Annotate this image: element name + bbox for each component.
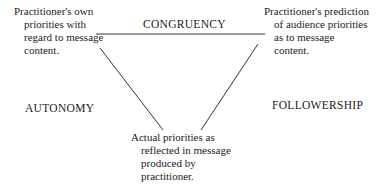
- node-line: priorities with: [14, 18, 103, 31]
- node-own-priorities: Practitioner's own priorities with regar…: [14, 5, 103, 57]
- node-line: Practitioner's own: [14, 5, 93, 17]
- node-line: Practitioner's prediction: [264, 5, 369, 17]
- node-line: of audience priorities: [264, 18, 369, 31]
- node-line: Actual priorities as: [131, 131, 215, 143]
- node-line: produced by: [131, 157, 231, 170]
- edge-label-followership: FOLLOWERSHIP: [272, 99, 363, 111]
- autonomy-edge: [100, 48, 163, 130]
- node-line: reflected in message: [131, 144, 231, 157]
- node-line: regard to message: [14, 31, 103, 44]
- node-line: content.: [14, 44, 103, 57]
- edge-label-congruency: CONGRUENCY: [143, 18, 226, 30]
- edge-label-autonomy: AUTONOMY: [25, 102, 94, 114]
- followership-edge: [201, 44, 258, 130]
- node-line: as to message: [264, 31, 369, 44]
- node-line: content.: [264, 44, 369, 57]
- node-audience-prediction: Practitioner's prediction of audience pr…: [264, 5, 369, 57]
- node-actual-priorities: Actual priorities as reflected in messag…: [131, 131, 231, 183]
- node-line: practitioner.: [131, 170, 231, 183]
